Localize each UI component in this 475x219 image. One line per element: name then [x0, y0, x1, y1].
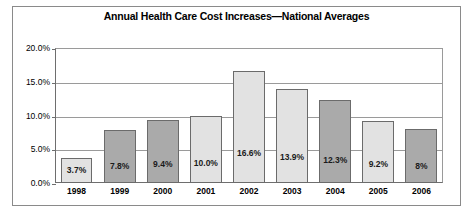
bar[interactable] — [276, 89, 308, 183]
bar-slot: 8% — [405, 48, 437, 183]
chart-figure: Annual Health Care Cost Increases—Nation… — [0, 0, 475, 219]
bar[interactable] — [233, 71, 265, 183]
chart-title: Annual Health Care Cost Increases—Nation… — [12, 10, 461, 22]
bar[interactable] — [362, 121, 394, 183]
bar[interactable] — [147, 120, 179, 183]
y-axis-label: 5.0% — [6, 144, 50, 154]
bar-value-label: 7.8% — [104, 161, 136, 171]
x-axis-label: 1999 — [98, 186, 141, 196]
bar[interactable] — [104, 130, 136, 183]
x-axis: 199819992000200120022003200420052006 — [55, 186, 443, 202]
y-axis-label: 0.0% — [6, 178, 50, 188]
x-axis-label: 2002 — [227, 186, 270, 196]
bar[interactable] — [405, 129, 437, 183]
bar-slot: 13.9% — [276, 48, 308, 183]
bar-slot: 9.2% — [362, 48, 394, 183]
bar[interactable] — [190, 116, 222, 184]
bar-value-label: 9.4% — [147, 159, 179, 169]
x-axis-label: 2006 — [400, 186, 443, 196]
bar-value-label: 8% — [405, 161, 437, 171]
bar-value-label: 16.6% — [233, 148, 265, 158]
bar-value-label: 10.0% — [190, 158, 222, 168]
bar-slot: 9.4% — [147, 48, 179, 183]
bar-slot: 10.0% — [190, 48, 222, 183]
x-axis-label: 2004 — [314, 186, 357, 196]
y-axis-label: 20.0% — [6, 43, 50, 53]
bar-slot: 3.7% — [61, 48, 93, 183]
bars-layer: 3.7%7.8%9.4%10.0%16.6%13.9%12.3%9.2%8% — [55, 48, 443, 183]
x-axis-label: 1998 — [55, 186, 98, 196]
bar-slot: 16.6% — [233, 48, 265, 183]
bar[interactable] — [319, 100, 351, 183]
bar-slot: 12.3% — [319, 48, 351, 183]
y-axis-label: 10.0% — [6, 111, 50, 121]
x-axis-label: 2001 — [184, 186, 227, 196]
y-axis-tick — [52, 184, 56, 185]
x-axis-label: 2003 — [271, 186, 314, 196]
bar-value-label: 13.9% — [276, 152, 308, 162]
x-axis-label: 2000 — [141, 186, 184, 196]
bar-value-label: 9.2% — [362, 159, 394, 169]
x-axis-label: 2005 — [357, 186, 400, 196]
y-axis-label: 15.0% — [6, 77, 50, 87]
bar-slot: 7.8% — [104, 48, 136, 183]
bar-value-label: 3.7% — [61, 165, 93, 175]
bar-value-label: 12.3% — [319, 155, 351, 165]
